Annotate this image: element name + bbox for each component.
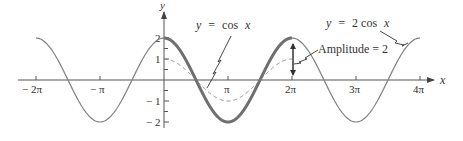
x-axis: x <box>18 73 446 87</box>
tick-label-mpi: − π <box>90 83 105 95</box>
cosine-amplitude-chart: x y − 2π − π π 2π 3π 4π 2 1 − 1 − 2 <box>0 0 463 141</box>
tick-label-ym1: − 1 <box>146 95 160 107</box>
tick-label-2pi: 2π <box>285 83 297 95</box>
tick-label-y1: 1 <box>155 53 161 65</box>
annotation-cos-x: y = cos x <box>195 18 251 88</box>
tick-label-y2: 2 <box>155 32 161 44</box>
tick-label-pi: π <box>224 83 230 95</box>
svg-text:Amplitude = 2: Amplitude = 2 <box>318 42 388 56</box>
x-ticks <box>36 76 420 80</box>
tick-label-3pi: 3π <box>349 83 361 95</box>
tick-label-4pi: 4π <box>413 83 425 95</box>
annotation-amplitude: Amplitude = 2 <box>294 42 388 64</box>
svg-text:y = cos x: y = cos x <box>195 18 251 32</box>
tick-label-ym2: − 2 <box>146 116 160 128</box>
tick-label-m2pi: − 2π <box>22 83 42 95</box>
svg-text:y = 2 cos x: y = 2 cos x <box>325 16 390 30</box>
y-axis-label: y <box>159 0 165 11</box>
x-axis-label: x <box>439 73 446 87</box>
x-tick-labels: − 2π − π π 2π 3π 4π <box>22 83 425 95</box>
